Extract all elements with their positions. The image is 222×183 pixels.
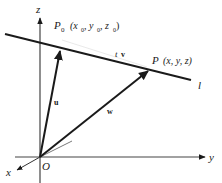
- vector-u-label: u: [54, 98, 59, 107]
- vector-tv: [62, 40, 147, 67]
- svg-text:): ): [116, 20, 119, 32]
- vector-tv-label: t v: [115, 49, 125, 59]
- svg-text:0: 0: [61, 26, 65, 34]
- svg-text:, z: , z: [100, 20, 109, 31]
- svg-text:(x, y, z): (x, y, z): [163, 55, 193, 67]
- x-axis-label: x: [5, 166, 11, 178]
- y-axis-label: y: [208, 151, 214, 163]
- point-p-label: P (x, y, z): [151, 54, 193, 67]
- svg-text:P: P: [151, 54, 159, 66]
- svg-text:v: v: [121, 50, 125, 59]
- svg-text:P: P: [53, 19, 61, 31]
- z-axis-label: z: [35, 3, 41, 15]
- svg-text:(x: (x: [70, 20, 78, 32]
- line-l-label: l: [198, 79, 201, 91]
- svg-text:t: t: [115, 49, 118, 59]
- vector-w-label: w: [107, 107, 113, 116]
- x-axis: [17, 157, 40, 170]
- origin-label: O: [42, 160, 50, 172]
- line-in-space-diagram: z y x O l P 0 (x 0 , y 0 , z 0 ) P (x, y…: [0, 0, 222, 183]
- vector-w: [40, 71, 148, 157]
- point-p0-label: P 0 (x 0 , y 0 , z 0 ): [53, 19, 119, 34]
- svg-text:, y: , y: [84, 20, 94, 31]
